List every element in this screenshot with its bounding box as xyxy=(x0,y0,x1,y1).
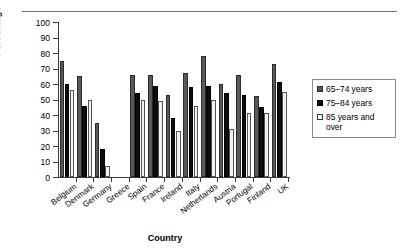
y-tick-label-0: 0 xyxy=(45,173,50,182)
x-axis-label-denmark: Denmark xyxy=(64,182,96,209)
plot-area xyxy=(58,22,288,177)
x-axis-label-germany: Germany xyxy=(81,182,113,209)
bar xyxy=(60,61,65,177)
bar-group xyxy=(183,22,199,177)
x-axis-label-uk: UK xyxy=(276,182,291,196)
x-axis-label-portugal: Portugal xyxy=(225,182,255,208)
bar xyxy=(105,166,110,177)
legend-label-0: 65–74 years xyxy=(326,84,372,94)
x-axis-label-ireland: Ireland xyxy=(159,182,184,204)
x-tick xyxy=(111,178,112,182)
bar xyxy=(148,75,153,177)
bar xyxy=(95,123,100,177)
bar xyxy=(254,96,259,177)
chart-legend: 65–74 years 75–84 years 85 years and ove… xyxy=(312,79,396,138)
x-axis-label-greece: Greece xyxy=(104,182,131,205)
chart-figure: Percentage Country 010203040506070809010… xyxy=(0,0,401,252)
bar xyxy=(259,107,264,177)
bar xyxy=(70,90,75,177)
x-tick xyxy=(76,178,77,182)
bar xyxy=(88,100,93,178)
bar-group xyxy=(219,22,235,177)
bar xyxy=(82,106,87,177)
x-tick xyxy=(164,178,165,182)
bar xyxy=(153,86,158,177)
bar-group xyxy=(148,22,164,177)
y-tick-label-100: 100 xyxy=(36,18,50,27)
legend-swatch-85-over-icon xyxy=(317,114,323,120)
bar xyxy=(206,86,211,177)
x-tick xyxy=(93,178,94,182)
bar xyxy=(65,84,70,177)
bar-group xyxy=(201,22,217,177)
x-axis-label-finland: Finland xyxy=(246,182,273,205)
y-tick-label-40: 40 xyxy=(41,111,50,120)
x-tick xyxy=(200,178,201,182)
bar xyxy=(158,101,163,177)
x-axis-label-italy: Italy xyxy=(184,182,201,198)
bar-group xyxy=(77,22,93,177)
y-tick-label-30: 30 xyxy=(41,127,50,136)
bar-group xyxy=(113,22,129,177)
header-divider xyxy=(22,11,397,12)
bar xyxy=(183,73,188,177)
x-axis-label-france: France xyxy=(141,182,167,205)
bar xyxy=(247,113,252,177)
bar xyxy=(130,75,135,177)
y-tick-label-20: 20 xyxy=(41,142,50,151)
x-axis-label-spain: Spain xyxy=(127,182,149,202)
legend-swatch-65-74-icon xyxy=(317,86,323,92)
bar xyxy=(201,56,206,177)
y-tick-label-60: 60 xyxy=(41,80,50,89)
x-tick xyxy=(217,178,218,182)
y-tick-label-90: 90 xyxy=(41,34,50,43)
bar-group xyxy=(130,22,146,177)
bar-group xyxy=(272,22,288,177)
bar xyxy=(277,82,282,177)
y-tick-label-80: 80 xyxy=(41,49,50,58)
bar xyxy=(100,149,105,177)
x-tick xyxy=(129,178,130,182)
bar xyxy=(242,95,247,177)
legend-item-2[interactable]: 85 years and over xyxy=(317,112,392,132)
legend-label-1: 75–84 years xyxy=(326,98,372,108)
bar-group xyxy=(166,22,182,177)
y-tick-label-70: 70 xyxy=(41,65,50,74)
bar xyxy=(194,106,199,177)
y-tick-label-10: 10 xyxy=(41,158,50,167)
bar-group xyxy=(95,22,111,177)
x-axis-title: Country xyxy=(0,233,330,243)
bar xyxy=(272,64,277,177)
x-tick xyxy=(182,178,183,182)
x-tick xyxy=(235,178,236,182)
legend-item-0[interactable]: 65–74 years xyxy=(317,84,392,94)
bar-group xyxy=(254,22,270,177)
x-tick xyxy=(288,178,289,182)
legend-swatch-75-84-icon xyxy=(317,100,323,106)
bar xyxy=(135,93,140,177)
x-axis-label-belgium: Belgium xyxy=(49,182,78,207)
bar xyxy=(211,100,216,178)
legend-label-2: 85 years and over xyxy=(326,112,392,132)
bar xyxy=(141,100,146,178)
x-axis-label-netherlands: Netherlands xyxy=(179,182,220,216)
bar xyxy=(166,95,171,177)
bar xyxy=(224,93,229,177)
bar xyxy=(77,76,82,177)
x-tick xyxy=(270,178,271,182)
bar xyxy=(282,92,287,177)
y-axis-title: Percentage xyxy=(0,6,2,56)
y-tick-0: 0 xyxy=(53,177,58,178)
bar xyxy=(176,131,181,178)
x-tick xyxy=(146,178,147,182)
bar xyxy=(171,118,176,177)
bar-group xyxy=(236,22,252,177)
bar xyxy=(236,75,241,177)
legend-item-1[interactable]: 75–84 years xyxy=(317,98,392,108)
x-axis-label-austria: Austria xyxy=(211,182,237,205)
bar xyxy=(189,87,194,177)
bar xyxy=(229,129,234,177)
bar xyxy=(219,84,224,177)
x-tick xyxy=(253,178,254,182)
bar-group xyxy=(60,22,76,177)
